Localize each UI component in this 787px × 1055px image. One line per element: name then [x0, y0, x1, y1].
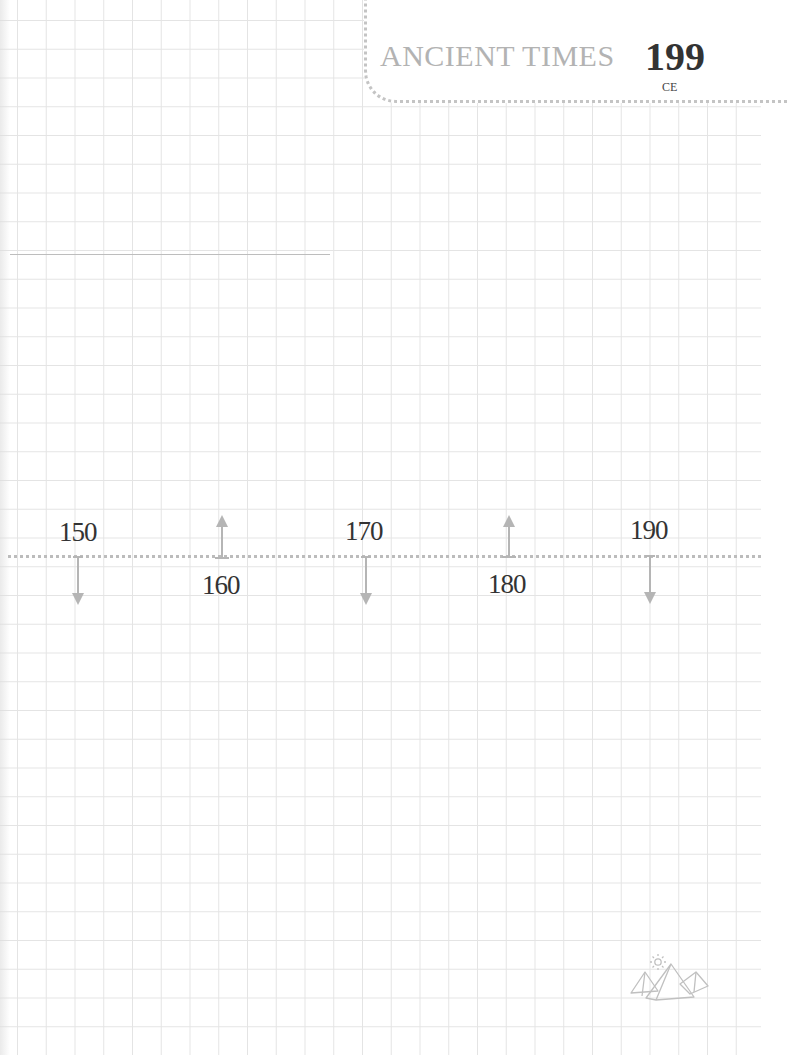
pyramids-with-sun-icon	[628, 950, 712, 1002]
tick-label-170: 170	[345, 516, 383, 547]
tick-label-150: 150	[59, 517, 97, 548]
tick-label-180: 180	[488, 569, 526, 600]
era-label: CE	[662, 80, 677, 95]
year-number: 199	[645, 33, 705, 80]
arrow-down-icon	[640, 554, 660, 606]
page-title: ANCIENT TIMES	[380, 39, 615, 73]
arrow-up-icon	[212, 513, 232, 561]
tick-label-190: 190	[630, 515, 668, 546]
arrow-down-icon	[356, 555, 376, 607]
arrow-up-icon	[499, 513, 519, 561]
tick-label-160: 160	[202, 570, 240, 601]
arrow-down-icon	[68, 555, 88, 607]
writing-line	[10, 254, 330, 255]
page-binding-shade	[0, 0, 10, 1055]
